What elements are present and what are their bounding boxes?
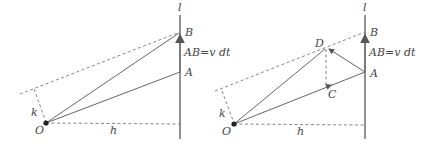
label-l: l bbox=[178, 1, 182, 14]
segment-OD bbox=[234, 49, 325, 124]
label-O: O bbox=[35, 124, 44, 137]
left-diagram: l B AB=v dt A k O h bbox=[20, 1, 231, 139]
label-C: C bbox=[328, 88, 337, 101]
label-D: D bbox=[314, 37, 324, 50]
point-O bbox=[231, 121, 236, 126]
segment-OA bbox=[234, 72, 365, 124]
label-h: h bbox=[110, 124, 117, 137]
segment-OB bbox=[46, 33, 179, 123]
label-O: O bbox=[222, 125, 231, 138]
label-A: A bbox=[369, 67, 378, 80]
label-AB: AB=v dt bbox=[183, 46, 231, 59]
label-AB: AB=v dt bbox=[368, 46, 416, 59]
segment-OA bbox=[46, 72, 180, 123]
label-h: h bbox=[297, 125, 304, 138]
dashed-parallel-line bbox=[20, 32, 180, 94]
arrow-AD bbox=[329, 49, 365, 72]
velocity-geometry-figure: l B AB=v dt A k O h l B AB=v dt A D C k … bbox=[0, 0, 432, 147]
label-A: A bbox=[184, 66, 193, 79]
point-O bbox=[43, 120, 48, 125]
right-diagram: l B AB=v dt A D C k O h bbox=[215, 1, 416, 139]
dashed-parallel-line bbox=[215, 32, 365, 91]
label-l: l bbox=[363, 1, 367, 14]
label-B: B bbox=[184, 26, 193, 39]
label-B: B bbox=[369, 26, 378, 39]
label-k: k bbox=[31, 106, 38, 119]
label-k: k bbox=[219, 107, 226, 120]
